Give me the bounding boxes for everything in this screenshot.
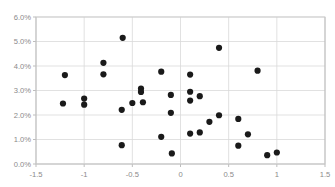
data-point <box>100 71 106 77</box>
data-point <box>235 116 241 122</box>
data-point <box>120 35 126 41</box>
x-tick-label: 1.5 <box>320 170 331 179</box>
data-point <box>197 93 203 99</box>
plot-svg: 0.0%1.0%2.0%3.0%4.0%5.0%6.0% -1.5-1-0.50… <box>0 0 335 187</box>
data-point <box>119 142 125 148</box>
y-tick-label: 5.0% <box>14 37 32 46</box>
x-tick-label: 1 <box>275 170 279 179</box>
data-point <box>216 112 222 118</box>
data-point <box>138 89 144 95</box>
y-axis-tick-labels: 0.0%1.0%2.0%3.0%4.0%5.0%6.0% <box>14 13 32 169</box>
data-point <box>197 129 203 135</box>
data-point <box>254 68 260 74</box>
data-point <box>129 100 135 106</box>
data-point <box>158 134 164 140</box>
data-point <box>119 107 125 113</box>
data-point <box>216 45 222 51</box>
data-point <box>235 143 241 149</box>
x-tick-label: 0 <box>178 170 182 179</box>
data-point <box>274 149 280 155</box>
y-tick-label: 6.0% <box>14 13 32 22</box>
data-point <box>187 97 193 103</box>
data-point <box>60 100 66 106</box>
data-point <box>62 72 68 78</box>
data-point <box>81 102 87 108</box>
gridlines-group <box>33 17 325 167</box>
data-point <box>140 99 146 105</box>
data-point <box>245 131 251 137</box>
y-tick-label: 3.0% <box>14 86 32 95</box>
data-point <box>100 60 106 66</box>
data-point <box>187 89 193 95</box>
data-point <box>264 152 270 158</box>
data-point <box>168 92 174 98</box>
scatter-chart: 0.0%1.0%2.0%3.0%4.0%5.0%6.0% -1.5-1-0.50… <box>0 0 335 187</box>
y-tick-label: 0.0% <box>14 160 32 169</box>
y-tick-label: 2.0% <box>14 111 32 120</box>
data-point <box>187 131 193 137</box>
data-point <box>169 150 175 156</box>
data-point <box>158 69 164 75</box>
data-point <box>81 95 87 101</box>
x-axis-tick-labels: -1.5-1-0.500.511.5 <box>29 170 330 179</box>
x-tick-label: -1 <box>81 170 88 179</box>
x-tick-label: -1.5 <box>29 170 42 179</box>
x-tick-label: 0.5 <box>223 170 234 179</box>
data-point <box>187 71 193 77</box>
y-tick-label: 4.0% <box>14 62 32 71</box>
data-point <box>168 110 174 116</box>
data-point <box>206 119 212 125</box>
y-tick-label: 1.0% <box>14 135 32 144</box>
x-tick-label: -0.5 <box>126 170 139 179</box>
